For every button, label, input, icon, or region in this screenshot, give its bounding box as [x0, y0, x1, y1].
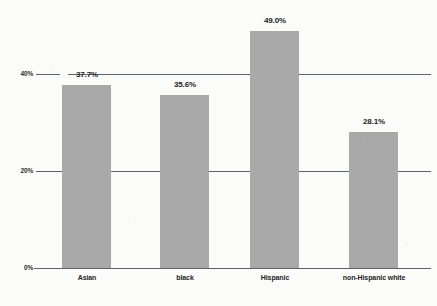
- bar-chart-figure: 40% 20% 0% 37.7% 35.6% 49.0% 28.1% Asian…: [0, 0, 437, 306]
- bar-value-label-non-hispanic-white: 28.1%: [343, 117, 405, 126]
- x-axis-label-non-hispanic-white: non-Hispanic white: [333, 274, 415, 281]
- y-axis-tick-label-0: 0%: [8, 264, 33, 271]
- y-axis-tick-label-20: 20%: [8, 167, 33, 174]
- bar-value-label-asian: 37.7%: [56, 70, 118, 79]
- tick-stub-20: [36, 171, 60, 172]
- plot-area: 40% 20% 0% 37.7% 35.6% 49.0% 28.1% Asian…: [0, 0, 437, 306]
- bar-asian[interactable]: [62, 85, 111, 268]
- x-axis-label-black: black: [154, 274, 216, 281]
- bar-hispanic[interactable]: [250, 31, 299, 268]
- bar-non-hispanic-white[interactable]: [349, 132, 398, 268]
- y-axis-tick-label-40: 40%: [8, 70, 33, 77]
- axis-baseline-0: [34, 268, 431, 269]
- x-axis-label-hispanic: Hispanic: [244, 274, 306, 281]
- bar-value-label-black: 35.6%: [154, 80, 216, 89]
- bar-value-label-hispanic: 49.0%: [244, 16, 306, 25]
- bar-black[interactable]: [160, 95, 209, 268]
- x-axis-label-asian: Asian: [56, 274, 118, 281]
